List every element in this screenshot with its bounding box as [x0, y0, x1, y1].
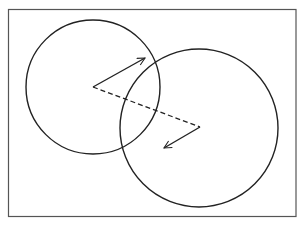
dashed-center-connector	[93, 87, 200, 127]
diagram-canvas	[0, 0, 307, 225]
two-circles-vector-diagram	[0, 0, 307, 225]
arrow-from-left-center	[93, 58, 145, 87]
arrow-from-right-center	[164, 127, 200, 148]
